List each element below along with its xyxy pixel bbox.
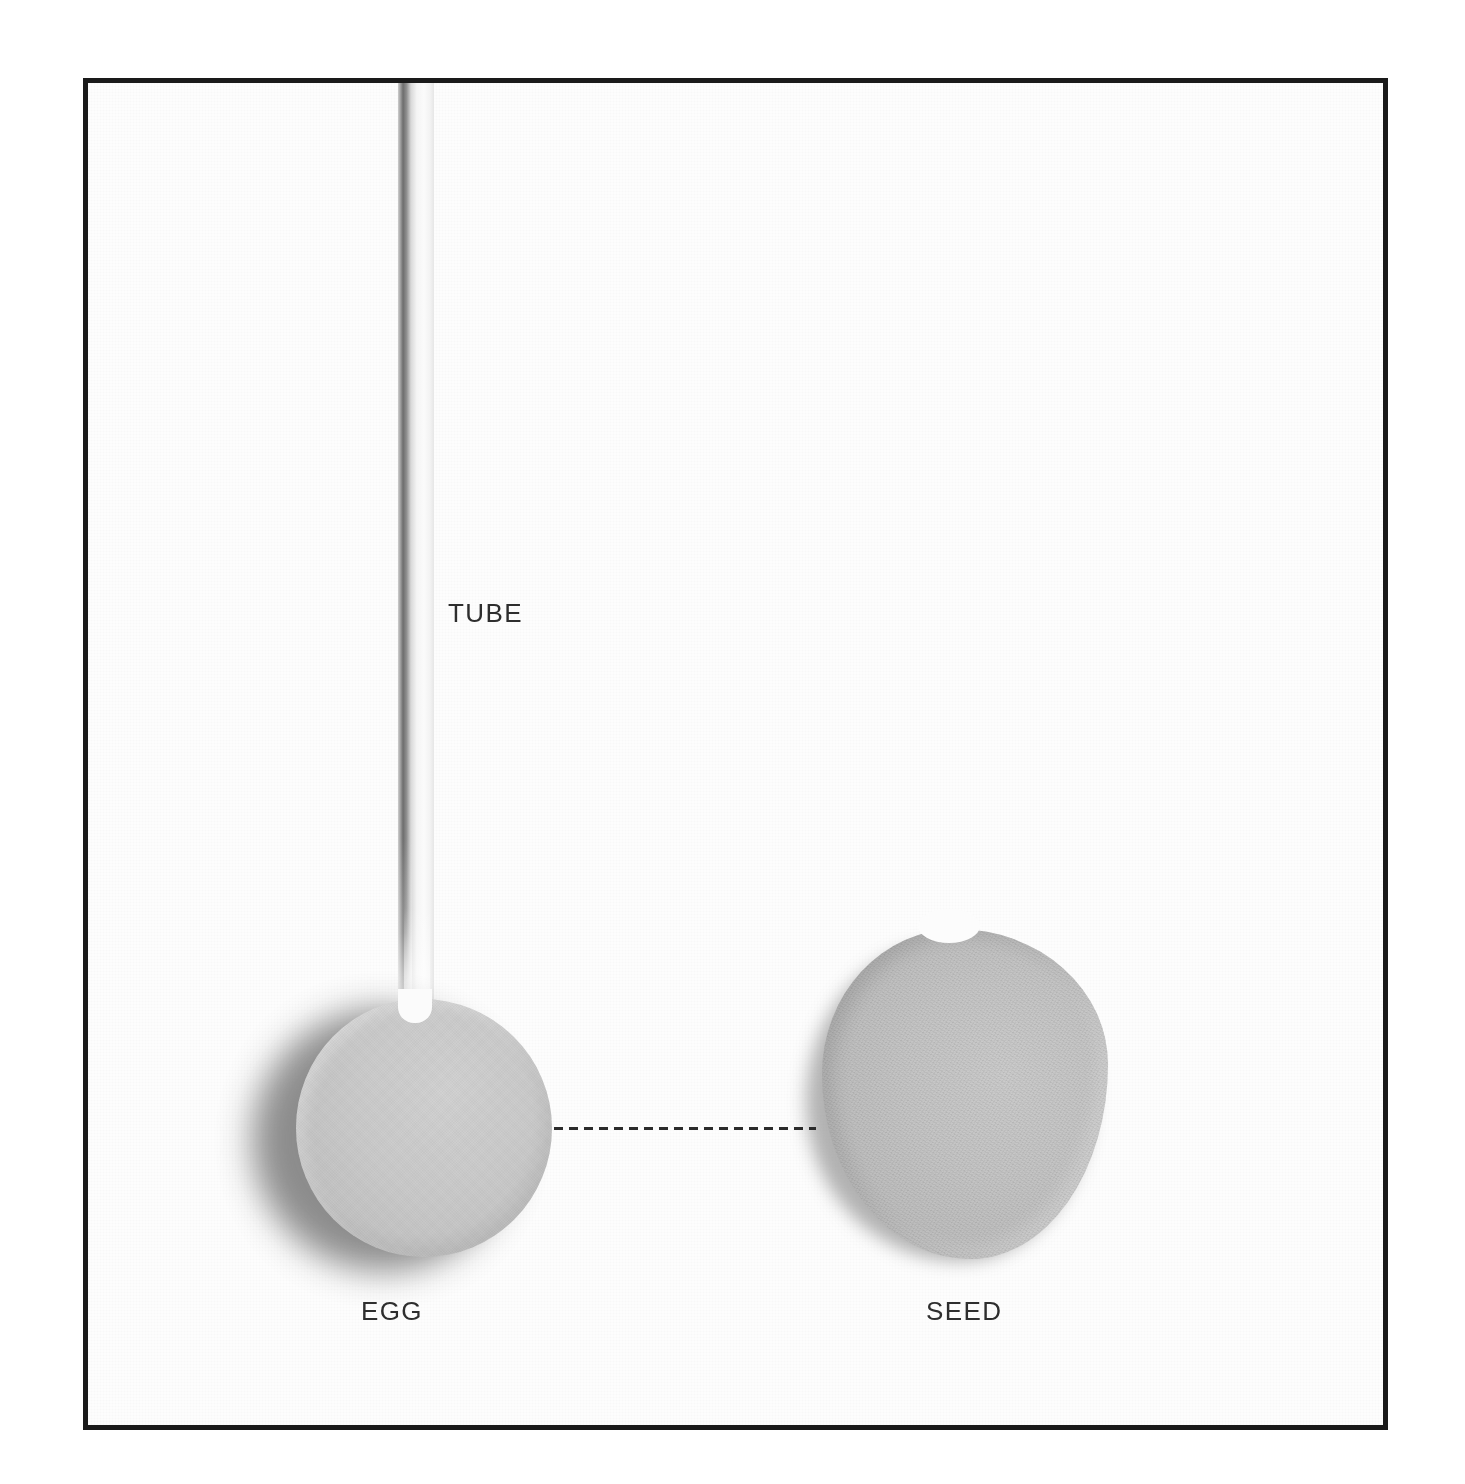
figure-frame: TUBE EGG SEED (83, 78, 1388, 1430)
egg-object (258, 993, 558, 1283)
label-seed: SEED (926, 1296, 1002, 1327)
label-egg: EGG (361, 1296, 423, 1327)
egg-tube-insertion-notch (398, 989, 432, 1023)
egg-grain-texture (296, 999, 552, 1257)
tube-edge-shadow (398, 78, 412, 1028)
seed-top-notch (918, 909, 980, 943)
tube-object (398, 78, 434, 1028)
seed-object (800, 921, 1130, 1283)
egg-body (296, 999, 552, 1257)
label-tube: TUBE (448, 598, 523, 629)
egg-seed-dashed-connector (554, 1126, 816, 1130)
